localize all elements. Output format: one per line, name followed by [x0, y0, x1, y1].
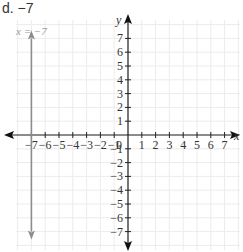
y-tick-label: −2	[110, 156, 123, 170]
y-tick-label: 2	[117, 100, 123, 114]
y-tick-label: −4	[110, 183, 123, 197]
y-tick-label: 5	[117, 59, 123, 73]
y-tick-label: 6	[117, 45, 123, 59]
x-tick-label: 6	[208, 138, 214, 152]
line-equation-label: x = −7	[15, 25, 47, 37]
x-tick-label: −4	[66, 138, 79, 152]
y-tick-label: 1	[117, 114, 123, 128]
x-tick-label: 7	[222, 138, 228, 152]
x-tick-label: −5	[53, 138, 66, 152]
y-axis-label: y	[115, 13, 122, 27]
x-tick-label: 1	[139, 138, 145, 152]
x-tick-label: 2	[153, 138, 159, 152]
y-tick-label: −3	[110, 169, 123, 183]
x-tick-label: 5	[194, 138, 200, 152]
x-axis-label: x	[233, 129, 240, 143]
y-tick-label: −6	[110, 211, 123, 225]
x-tick-label: −2	[94, 138, 107, 152]
y-tick-label: 3	[117, 87, 123, 101]
x-tick-label: −3	[80, 138, 93, 152]
origin-label: 0	[116, 138, 122, 152]
x-tick-label: −6	[39, 138, 52, 152]
x-tick-label: 4	[180, 138, 186, 152]
y-tick-label: −5	[110, 197, 123, 211]
y-tick-label: 4	[117, 73, 123, 87]
coordinate-plane: −7−6−5−4−3−2−11234567−7−6−5−4−3−2−112345…	[0, 0, 243, 252]
y-tick-label: −7	[110, 225, 123, 239]
x-tick-label: 3	[166, 138, 172, 152]
y-tick-label: 7	[117, 31, 123, 45]
